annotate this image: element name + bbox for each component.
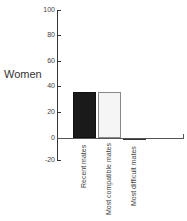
y-tick-label: 20 <box>33 108 55 115</box>
y-tick-label: 60 <box>33 57 55 64</box>
y-tick-label: 0 <box>33 134 55 141</box>
y-axis-label: Women <box>4 68 42 80</box>
y-tick-label: 80 <box>33 31 55 38</box>
y-tick <box>57 86 61 87</box>
y-tick <box>57 112 61 113</box>
y-tick <box>57 61 61 62</box>
y-tick <box>57 35 61 36</box>
x-label-most-difficult-mates: Most difficult mates <box>130 146 137 206</box>
bar-recent-mates <box>73 92 96 138</box>
x-axis <box>57 138 184 139</box>
y-tick <box>57 160 61 161</box>
y-tick-label: 100 <box>33 6 55 13</box>
x-label-most-compatible-mates: Most compatible mates <box>105 143 112 215</box>
x-label-recent-mates: Recent mates <box>80 145 87 188</box>
bar-most-compatible-mates <box>98 92 121 138</box>
y-tick <box>57 10 61 11</box>
x-axis-end-tick <box>183 134 184 138</box>
y-tick-label: 40 <box>33 82 55 89</box>
y-tick-label: -20 <box>33 156 55 163</box>
